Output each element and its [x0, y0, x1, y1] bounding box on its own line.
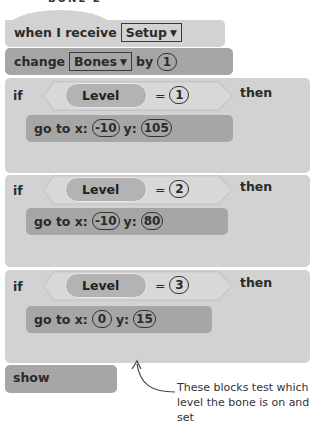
- if-label: if: [13, 279, 23, 294]
- y-label: y:: [116, 312, 129, 327]
- annotation-arrow-icon: [120, 358, 180, 398]
- show-block[interactable]: show: [5, 365, 117, 393]
- level-variable-reporter[interactable]: Level: [65, 177, 147, 202]
- go-to-x-label: go to x:: [34, 214, 88, 229]
- level-variable-reporter[interactable]: Level: [65, 83, 147, 108]
- by-label: by: [136, 54, 153, 69]
- annotation-line-2: level the bone is on and set: [177, 395, 320, 425]
- variable-dropdown-value: Bones: [74, 54, 117, 69]
- compare-value-input[interactable]: 2: [169, 180, 189, 198]
- if-label: if: [13, 88, 23, 103]
- equals-operator: =: [155, 88, 165, 103]
- y-label: y:: [124, 121, 137, 136]
- compare-value-input[interactable]: 3: [169, 276, 189, 294]
- y-input[interactable]: 15: [133, 310, 156, 328]
- go-to-xy-block[interactable]: go to x: 0 y: 15: [26, 306, 212, 333]
- dropdown-arrow-icon: ▼: [120, 57, 127, 67]
- then-label: then: [240, 275, 272, 290]
- y-input[interactable]: 105: [141, 119, 172, 137]
- y-label: y:: [124, 214, 137, 229]
- message-dropdown[interactable]: Setup▼: [121, 23, 182, 42]
- when-i-receive-block[interactable]: when I receive Setup▼: [5, 20, 225, 47]
- dropdown-arrow-icon: ▼: [170, 28, 177, 38]
- x-input[interactable]: 0: [92, 310, 112, 328]
- message-dropdown-value: Setup: [126, 25, 167, 40]
- x-input[interactable]: -10: [92, 119, 120, 137]
- change-label: change: [14, 54, 65, 69]
- when-i-receive-label: when I receive: [14, 25, 117, 40]
- if-block-3[interactable]: if Level = 3 then go to x: 0 y: 15: [5, 270, 310, 363]
- change-variable-block[interactable]: change Bones▼ by 1: [5, 48, 233, 75]
- compare-value-input[interactable]: 1: [169, 86, 189, 104]
- level-variable-reporter[interactable]: Level: [65, 273, 147, 298]
- if-block-1[interactable]: if Level = 1 then go to x: -10 y: 105: [5, 78, 310, 173]
- then-label: then: [240, 179, 272, 194]
- change-amount-input[interactable]: 1: [157, 53, 177, 71]
- annotation-text: These blocks test which level the bone i…: [177, 380, 320, 425]
- y-input[interactable]: 80: [141, 212, 164, 230]
- annotation-line-1: These blocks test which: [177, 380, 320, 395]
- if-block-2[interactable]: if Level = 2 then go to x: -10 y: 80: [5, 175, 310, 267]
- show-label: show: [13, 370, 49, 385]
- variable-dropdown[interactable]: Bones▼: [69, 52, 132, 71]
- go-to-xy-block[interactable]: go to x: -10 y: 105: [26, 115, 233, 142]
- equals-operator: =: [155, 278, 165, 293]
- then-label: then: [240, 85, 272, 100]
- sprite-title: BONE 2: [48, 0, 102, 4]
- if-label: if: [13, 183, 23, 198]
- go-to-x-label: go to x:: [34, 312, 88, 327]
- x-input[interactable]: -10: [92, 212, 120, 230]
- equals-operator: =: [155, 182, 165, 197]
- go-to-x-label: go to x:: [34, 121, 88, 136]
- go-to-xy-block[interactable]: go to x: -10 y: 80: [26, 208, 228, 235]
